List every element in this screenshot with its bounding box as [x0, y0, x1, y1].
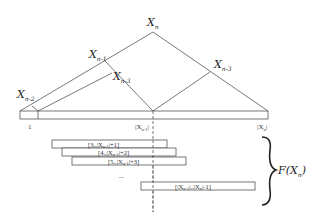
node-label-right-child: Xn-3	[213, 58, 232, 72]
node-label-left-inner: Xn-3	[112, 70, 131, 84]
axis-start-label: 1	[28, 123, 32, 131]
substring-bars	[52, 140, 255, 190]
node-label-left-grandchild: Xn-2	[16, 88, 35, 102]
string-bar	[20, 111, 268, 119]
node-label-top: Xn	[146, 16, 159, 30]
axis-mid-label: |Xn-1|	[135, 123, 149, 132]
node-label-left-child: Xn-1	[88, 48, 107, 62]
brace-label: F(Xn)	[277, 164, 306, 178]
bar-ellipsis: ...	[119, 172, 124, 179]
axis-end-label: |Xn|	[257, 123, 267, 132]
fibonacci-string-diagram: Xn Xn-1 Xn-3 Xn-3 Xn-2 1 |Xn-1| |Xn| [3.…	[0, 0, 315, 217]
curly-brace-icon	[262, 137, 276, 205]
